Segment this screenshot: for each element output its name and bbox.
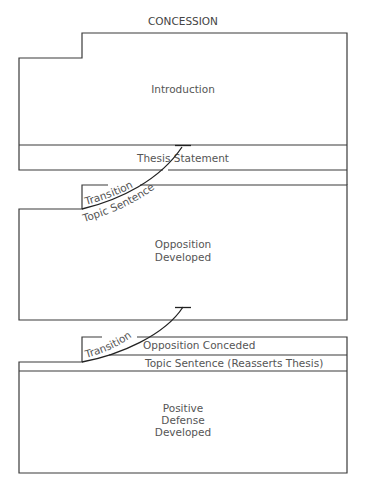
defense-body-line3: Developed bbox=[155, 426, 211, 438]
thesis-band: Thesis Statement bbox=[19, 145, 347, 185]
opposition-body-line2: Developed bbox=[155, 251, 211, 263]
introduction-block: Introduction bbox=[19, 33, 347, 145]
concession-diagram: CONCESSION Introduction Thesis Statement… bbox=[0, 0, 365, 484]
defense-block: Transition Opposition Conceded Topic Sen… bbox=[19, 307, 347, 473]
defense-topic-label: Topic Sentence (Reasserts Thesis) bbox=[144, 357, 323, 369]
diagram-title: CONCESSION bbox=[148, 15, 218, 27]
defense-body-line2: Defense bbox=[161, 414, 204, 426]
opposition-body-line1: Opposition bbox=[155, 238, 212, 250]
opposition-block: Transition Topic Sentence Opposition Dev… bbox=[19, 147, 347, 320]
defense-body-line1: Positive bbox=[163, 402, 203, 414]
conceded-label: Opposition Conceded bbox=[143, 339, 255, 351]
thesis-label: Thesis Statement bbox=[136, 152, 229, 164]
introduction-label: Introduction bbox=[151, 83, 215, 95]
